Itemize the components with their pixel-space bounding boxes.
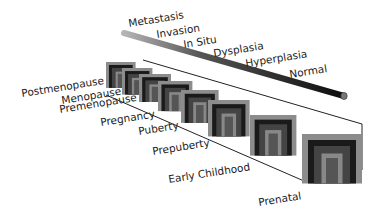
window-prenatal: [302, 134, 362, 184]
label-puberty: Puberty: [137, 119, 179, 137]
diagram-canvas: Metastasis Invasion In Situ Dysplasia Hy…: [0, 0, 384, 220]
label-prepuberty: Prepuberty: [151, 136, 210, 157]
window-early-childhood: [250, 115, 296, 156]
window-prepuberty: [208, 100, 250, 136]
label-prenatal: Prenatal: [257, 189, 302, 208]
label-normal: Normal: [288, 62, 327, 80]
label-early-childhood: Early Childhood: [167, 160, 250, 185]
